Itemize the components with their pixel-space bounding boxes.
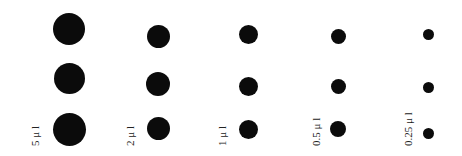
label-1ul: 1 μ l: [216, 126, 228, 146]
blot-spot: [147, 117, 170, 140]
blot-spot: [239, 120, 258, 139]
blot-spot: [330, 121, 346, 137]
blot-spot: [146, 72, 170, 96]
blot-spot: [239, 77, 258, 96]
label-0-5ul: 0.5 μ l: [310, 118, 322, 146]
label-0-25ul: 0.25 μ l: [402, 112, 414, 146]
dot-blot-image: 5 μ l 2 μ l 1 μ l 0.5 μ l 0.25 μ l: [0, 0, 462, 156]
blot-spot: [147, 25, 170, 48]
blot-spot: [54, 63, 85, 94]
label-5ul: 5 μ l: [29, 126, 41, 146]
blot-spot: [423, 29, 434, 40]
blot-spot: [423, 82, 434, 93]
blot-spot: [239, 25, 258, 44]
label-2ul: 2 μ l: [124, 126, 136, 146]
blot-spot: [331, 79, 346, 94]
blot-spot: [331, 29, 346, 44]
blot-spot: [53, 113, 86, 146]
blot-spot: [423, 128, 434, 139]
blot-spot: [53, 13, 85, 45]
